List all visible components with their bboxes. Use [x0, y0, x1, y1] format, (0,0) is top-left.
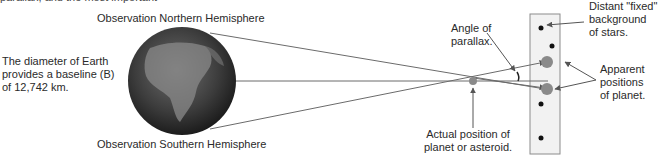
label-actual-position: Actual position of planet or asteroid. — [424, 128, 512, 154]
label-background-stars: Distant "fixed" background of stars. — [589, 0, 657, 39]
planet-actual-icon — [469, 77, 477, 85]
planet-apparent-north-icon — [541, 56, 553, 68]
earth-globe — [128, 27, 236, 135]
apparent-pointer-north — [565, 62, 596, 80]
label-apparent-positions: Apparent positions of planet. — [600, 63, 645, 102]
apparent-pointer-south — [555, 80, 596, 89]
label-baseline: The diameter of Earth provides a baselin… — [2, 55, 115, 94]
label-angle-of-parallax: Angle of parallax. — [451, 22, 493, 48]
parallax-angle-icon — [517, 72, 519, 81]
planet-apparent-south-icon — [541, 83, 553, 95]
label-south-hemisphere: Observation Southern Hemisphere — [97, 138, 266, 151]
label-north-hemisphere: Observation Northern Hemisphere — [97, 12, 265, 25]
